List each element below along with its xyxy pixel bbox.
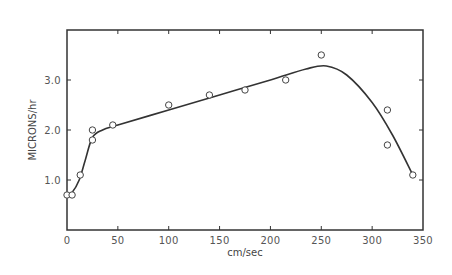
data-point — [166, 102, 172, 108]
data-point — [89, 127, 95, 133]
x-axis-label: cm/sec — [227, 247, 262, 258]
x-tick-label: 350 — [413, 235, 433, 246]
data-point — [89, 137, 95, 143]
data-point — [410, 172, 416, 178]
data-point — [110, 122, 116, 128]
data-point — [242, 87, 248, 93]
data-point — [318, 52, 324, 58]
plot-frame — [67, 30, 423, 230]
y-axis-label: MICRONS/hr — [27, 99, 38, 161]
y-tick-label: 2.0 — [44, 125, 61, 136]
data-point — [206, 92, 212, 98]
x-tick-label: 300 — [362, 235, 382, 246]
data-point — [77, 172, 83, 178]
data-point — [69, 192, 75, 198]
x-axis-ticks: 050100150200250300350 — [64, 30, 433, 246]
fitted-curve — [67, 66, 413, 195]
x-tick-label: 200 — [260, 235, 280, 246]
y-tick-label: 3.0 — [44, 75, 61, 86]
x-tick-label: 250 — [311, 235, 331, 246]
curve-path — [67, 66, 413, 195]
data-point — [384, 142, 390, 148]
y-tick-label: 1.0 — [44, 175, 61, 186]
x-tick-label: 0 — [64, 235, 71, 246]
x-tick-label: 100 — [159, 235, 179, 246]
x-tick-label: 150 — [210, 235, 230, 246]
chart: 050100150200250300350 1.02.03.0 cm/sec M… — [0, 0, 452, 275]
x-tick-label: 50 — [111, 235, 124, 246]
data-point — [384, 107, 390, 113]
data-point — [282, 77, 288, 83]
